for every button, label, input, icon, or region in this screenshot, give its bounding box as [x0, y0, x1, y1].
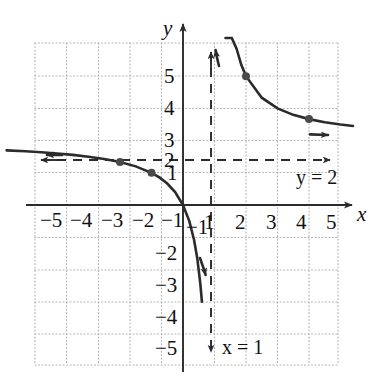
y-tick-label--2: −2: [155, 243, 177, 264]
y-tick-label-5: 5: [164, 66, 175, 87]
x-axis-label: x: [357, 204, 366, 225]
y-tick-label-4: 4: [164, 98, 175, 119]
x-tick-label-3: 3: [266, 212, 277, 233]
x-tick-label-5: 5: [326, 212, 337, 233]
coordinate-plane: [0, 0, 386, 384]
y-tick-label--5: −5: [155, 338, 177, 359]
x-tick-label--5: −5: [40, 210, 62, 231]
y-tick-label--1: −1: [186, 217, 208, 238]
x-tick-label--3: −3: [101, 210, 123, 231]
x-tick-label--4: −4: [70, 210, 92, 231]
point--1-1: [148, 169, 156, 177]
y-tick-label--3: −3: [155, 275, 177, 296]
x-tick-label--1: −1: [161, 210, 183, 231]
y-axis-label: y: [163, 18, 172, 39]
point--2-1.333: [116, 158, 124, 166]
vertical-asymptote-label: x = 1: [222, 337, 263, 357]
y-tick-label-1: 1: [167, 163, 178, 184]
curve-right-branch: [216, 38, 354, 135]
left-branch-down-arrow: [200, 258, 206, 275]
horizontal-asymptote-label: y = 2: [296, 167, 337, 187]
graph-figure: −5 −4 −3 −2 −1 1 2 3 4 5 5 4 3 2 1 −1 −2…: [0, 0, 386, 384]
x-tick-label-2: 2: [235, 212, 246, 233]
right-branch-right-arrow: [310, 134, 328, 135]
x-tick-label-4: 4: [296, 212, 307, 233]
y-tick-label--4: −4: [155, 307, 177, 328]
asymptote-lines: [41, 52, 330, 352]
right-branch-up-arrow: [216, 50, 219, 66]
point-4-2.667: [305, 115, 313, 123]
grid-lines: [35, 43, 338, 365]
x-tick-label--2: −2: [132, 210, 154, 231]
point-2-4: [242, 72, 250, 80]
